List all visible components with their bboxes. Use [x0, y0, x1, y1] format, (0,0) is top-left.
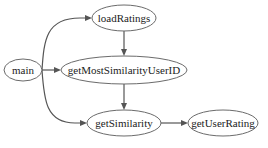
node-label: getMostSimilarityUserID — [68, 64, 180, 76]
node-label: main — [12, 64, 34, 76]
arrowhead-icon — [181, 120, 188, 126]
arrowhead-icon — [80, 120, 87, 126]
node-getUserRating: getUserRating — [188, 110, 258, 136]
arrowhead-icon — [121, 49, 127, 56]
node-loadRatings: loadRatings — [92, 5, 156, 31]
node-main: main — [4, 59, 42, 81]
node-label: loadRatings — [98, 12, 151, 24]
arrowhead-icon — [121, 103, 127, 110]
call-graph-diagram: main loadRatings getMostSimilarityUserID… — [0, 0, 268, 148]
node-label: getUserRating — [191, 117, 255, 129]
node-getMostSimilarityUserID: getMostSimilarityUserID — [61, 56, 187, 84]
arrowhead-icon — [85, 15, 92, 21]
node-getSimilarity: getSimilarity — [87, 110, 161, 136]
node-label: getSimilarity — [95, 117, 153, 129]
arrowhead-icon — [54, 67, 61, 73]
